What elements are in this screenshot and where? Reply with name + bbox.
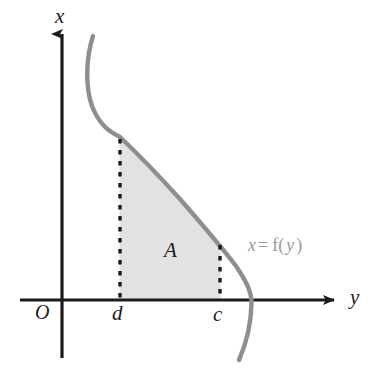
shaded-region-A	[120, 137, 220, 300]
curve-equation-x: x	[248, 235, 256, 255]
curve-equation-equals: =	[256, 235, 270, 255]
curve-equation-y: y	[286, 235, 294, 255]
region-label-A: A	[164, 240, 177, 261]
axis-tick-label-d: d	[112, 303, 123, 324]
figure-canvas: x y O d c A x=f(y)	[0, 0, 374, 389]
axis-tick-label-c: c	[213, 304, 222, 325]
origin-label: O	[35, 302, 49, 322]
vertical-axis-label-x: x	[55, 6, 64, 27]
horizontal-axis-label-y: y	[350, 287, 359, 308]
curve-equation-label: x=f(y)	[248, 236, 304, 254]
diagram-svg	[0, 0, 374, 389]
curve-equation-close-paren: )	[294, 235, 304, 255]
curve-equation-f: f(	[270, 235, 286, 255]
